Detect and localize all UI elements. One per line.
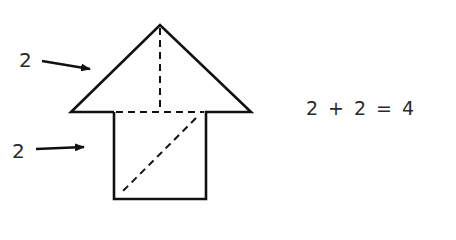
square-label: 2 <box>12 139 25 163</box>
triangle-label: 2 <box>19 48 32 72</box>
equation-term-2: 2 <box>354 97 367 119</box>
arrow-outline <box>71 25 251 199</box>
equation-result: 4 <box>402 97 415 119</box>
equation-plus: + <box>328 97 345 119</box>
triangle-pointer-arrow <box>42 61 90 69</box>
square-pointer-arrow <box>36 147 84 149</box>
square-dashed-diagonal <box>122 118 196 192</box>
equation: 2+2=4 <box>306 97 424 119</box>
equation-term-1: 2 <box>306 97 319 119</box>
equation-equals: = <box>376 97 393 119</box>
